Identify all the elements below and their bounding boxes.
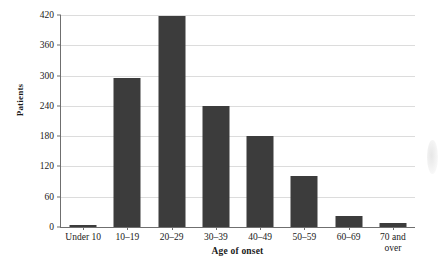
y-tick-label: 60 (20, 192, 54, 202)
x-tick-mark (260, 227, 261, 230)
bar-group: 60–69 (327, 15, 371, 227)
x-tick-mark (216, 227, 217, 230)
bar-group: Under 10 (61, 15, 105, 227)
y-tick-label: 420 (20, 10, 54, 20)
y-tick-label: 360 (20, 40, 54, 50)
x-tick-mark (393, 227, 394, 230)
bar[interactable] (202, 106, 229, 227)
x-tick-mark (349, 227, 350, 230)
bar-group: 20–29 (150, 15, 194, 227)
x-tick-label: 20–29 (160, 232, 184, 243)
bars-layer: Under 1010–1920–2930–3940–4950–5960–6970… (61, 15, 415, 227)
y-tick-label: 0 (20, 222, 54, 232)
plot-area: 060120180240300360420 Under 1010–1920–29… (60, 15, 415, 228)
x-tick-mark (304, 227, 305, 230)
x-tick-label: 50–59 (293, 232, 317, 243)
y-tick-label: 180 (20, 131, 54, 141)
bar-group: 10–19 (105, 15, 149, 227)
bar-group: 70 andover (371, 15, 415, 227)
x-tick-mark (83, 227, 84, 230)
x-axis-title: Age of onset (60, 246, 415, 256)
bar-group: 50–59 (282, 15, 326, 227)
bar[interactable] (291, 176, 318, 227)
x-tick-label: 40–49 (248, 232, 272, 243)
bar-chart-figure: Patients 060120180240300360420 Under 101… (0, 0, 444, 265)
x-tick-label: 60–69 (337, 232, 361, 243)
bar-group: 40–49 (238, 15, 282, 227)
bar[interactable] (158, 16, 185, 227)
bar-group: 30–39 (194, 15, 238, 227)
y-tick-label: 120 (20, 161, 54, 171)
y-tick-label: 240 (20, 101, 54, 111)
scan-artifact (427, 140, 438, 174)
bar[interactable] (335, 216, 362, 227)
bar[interactable] (247, 136, 274, 227)
x-tick-mark (172, 227, 173, 230)
x-tick-mark (127, 227, 128, 230)
x-tick-label: Under 10 (65, 232, 101, 243)
x-tick-label: 30–39 (204, 232, 228, 243)
bar[interactable] (114, 78, 141, 227)
x-tick-label: 10–19 (116, 232, 140, 243)
y-tick-label: 300 (20, 71, 54, 81)
